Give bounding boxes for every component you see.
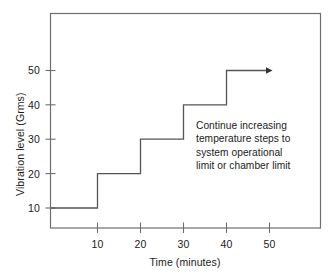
annotation-line-1: Continue increasing [196, 119, 320, 132]
x-tick-label-40: 40 [215, 238, 239, 250]
annotation-line-3: system operational [196, 146, 320, 159]
x-tick-label-20: 20 [129, 238, 153, 250]
chart-annotation: Continue increasing temperature steps to… [196, 119, 320, 173]
y-tick-label-10: 10 [22, 202, 40, 214]
annotation-line-2: temperature steps to [196, 132, 320, 145]
x-tick-label-10: 10 [86, 238, 110, 250]
x-tick-label-50: 50 [258, 238, 282, 250]
y-tick-label-50: 50 [22, 64, 40, 76]
vibration-step-profile-chart: 50 40 30 20 10 10 20 30 40 50 Vibration … [0, 0, 330, 277]
y-axis-title: Vibration level (Grms) [14, 92, 26, 196]
annotation-line-4: limit or chamber limit [196, 159, 320, 172]
x-tick-label-30: 30 [172, 238, 196, 250]
arrowhead-icon [266, 67, 273, 73]
x-axis-title: Time (minutes) [125, 256, 245, 268]
